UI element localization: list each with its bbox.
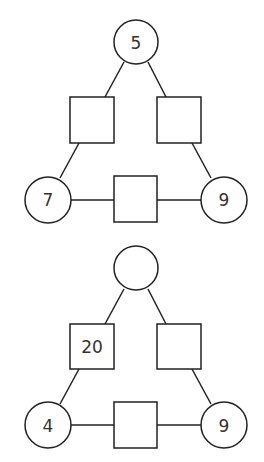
left-circle-value: 7 [43,190,54,210]
bottom-square[interactable] [114,176,157,222]
top-circle[interactable] [114,246,158,290]
right-circle-value: 9 [219,416,230,436]
puzzle-2 [25,246,247,448]
edge [105,62,124,97]
puzzle-canvas: 5 7 9 20 4 9 [0,0,264,462]
right-circle-value: 9 [219,190,230,210]
left-square-value: 20 [81,337,103,357]
edge [105,289,124,324]
edge [60,143,79,178]
edge [148,289,166,324]
left-square[interactable] [70,97,114,143]
top-circle-value: 5 [131,33,142,53]
edge [192,369,211,404]
right-square[interactable] [157,97,201,143]
bottom-square[interactable] [114,402,157,448]
left-circle-value: 4 [43,416,54,436]
edge [148,62,166,97]
right-square[interactable] [157,324,201,369]
edge [60,369,79,404]
edge [192,143,211,178]
